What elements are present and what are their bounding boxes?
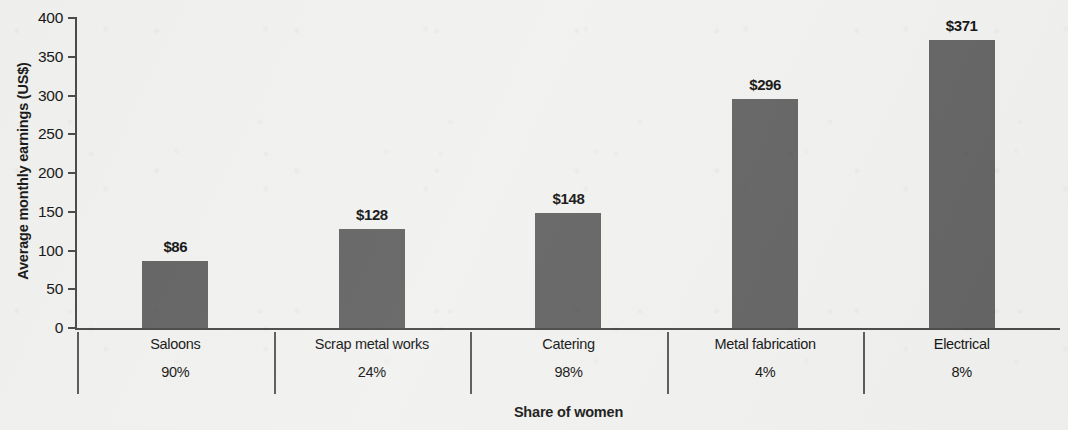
- y-axis-tick-label: 300: [38, 87, 63, 105]
- category-cell: Saloons90%: [77, 330, 274, 396]
- category-divider: [470, 332, 472, 394]
- category-cell: Catering98%: [470, 330, 667, 396]
- category-cell: Electrical8%: [863, 330, 1060, 396]
- y-axis-tick-label: 150: [38, 203, 63, 221]
- category-cell: Metal fabrication4%: [667, 330, 864, 396]
- category-name: Electrical: [863, 336, 1060, 352]
- bar-value-label: $296: [749, 76, 781, 93]
- category-divider: [77, 332, 79, 394]
- bar-value-label: $86: [163, 238, 187, 255]
- y-axis-tick: 200: [38, 162, 76, 184]
- bar-group: $148: [470, 18, 667, 328]
- bar-value-label: $371: [946, 17, 978, 34]
- y-axis-tick: 100: [38, 240, 76, 262]
- y-axis-tick: 300: [38, 85, 76, 107]
- x-axis-title: Share of women: [77, 404, 1060, 420]
- bar-group: $128: [274, 18, 471, 328]
- category-divider: [274, 332, 276, 394]
- y-axis-tick: 350: [38, 46, 76, 68]
- bar-group: $86: [77, 18, 274, 328]
- category-cell: Scrap metal works24%: [274, 330, 471, 396]
- y-axis-tick-label: 50: [46, 280, 63, 298]
- category-share-value: 4%: [667, 364, 864, 380]
- category-divider: [667, 332, 669, 394]
- bar-group: $371: [863, 18, 1060, 328]
- category-name: Metal fabrication: [667, 336, 864, 352]
- y-axis-ticks: 050100150200250300350400: [0, 0, 76, 430]
- category-share-value: 8%: [863, 364, 1060, 380]
- y-axis-tick-label: 350: [38, 48, 63, 66]
- category-share-value: 98%: [470, 364, 667, 380]
- bar[interactable]: [142, 261, 208, 328]
- bar[interactable]: [535, 213, 601, 328]
- category-name: Saloons: [77, 336, 274, 352]
- y-axis-tick-label: 250: [38, 125, 63, 143]
- y-axis-tick-label: 100: [38, 242, 63, 260]
- category-axis-table: Saloons90%Scrap metal works24%Catering98…: [77, 330, 1060, 396]
- category-share-value: 24%: [274, 364, 471, 380]
- category-divider: [863, 332, 865, 394]
- y-axis-tick: 50: [46, 278, 76, 300]
- y-axis-tick-label: 200: [38, 164, 63, 182]
- bar[interactable]: [732, 99, 798, 328]
- y-axis-tick-label: 400: [38, 9, 63, 27]
- bar-chart: Average monthly earnings (US$) 050100150…: [0, 0, 1068, 430]
- bar-group: $296: [667, 18, 864, 328]
- y-axis-tick: 0: [55, 317, 76, 339]
- y-axis-tick: 150: [38, 201, 76, 223]
- bar-value-label: $128: [356, 206, 388, 223]
- bar-value-label: $148: [553, 190, 585, 207]
- bar[interactable]: [339, 229, 405, 328]
- category-name: Scrap metal works: [274, 336, 471, 352]
- y-axis-tick: 400: [38, 7, 76, 29]
- plot-area: $86$128$148$296$371: [77, 18, 1060, 328]
- bar[interactable]: [929, 40, 995, 328]
- y-axis-tick: 250: [38, 123, 76, 145]
- category-name: Catering: [470, 336, 667, 352]
- category-share-value: 90%: [77, 364, 274, 380]
- y-axis-tick-label: 0: [55, 319, 63, 337]
